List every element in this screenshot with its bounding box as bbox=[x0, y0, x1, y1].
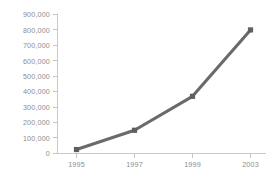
y-tick-label: 200,000 bbox=[23, 118, 50, 127]
y-tick-label: 700,000 bbox=[23, 41, 50, 50]
y-tick-label: 300,000 bbox=[23, 103, 50, 112]
data-point-marker bbox=[248, 27, 253, 32]
series-line bbox=[77, 30, 251, 150]
x-axis-tick-labels: 1995 1997 1999 2003 bbox=[68, 160, 259, 169]
y-tick-label: 600,000 bbox=[23, 57, 50, 66]
series-markers bbox=[74, 27, 253, 152]
x-axis-ticks bbox=[77, 153, 251, 157]
y-tick-label: 0 bbox=[46, 149, 50, 158]
x-tick-label: 1995 bbox=[68, 160, 85, 169]
y-axis-ticks bbox=[53, 15, 58, 154]
x-tick-label: 2003 bbox=[242, 160, 259, 169]
x-axis: 1995 1997 1999 2003 bbox=[58, 153, 267, 169]
y-tick-label: 400,000 bbox=[23, 87, 50, 96]
y-axis: 900,000 800,000 700,000 600,000 500,000 … bbox=[23, 10, 58, 158]
y-tick-label: 800,000 bbox=[23, 26, 50, 35]
data-point-marker bbox=[132, 128, 137, 133]
y-tick-label: 100,000 bbox=[23, 134, 50, 143]
x-tick-label: 1999 bbox=[184, 160, 201, 169]
data-series bbox=[74, 27, 253, 152]
data-point-marker bbox=[74, 147, 79, 152]
y-tick-label: 900,000 bbox=[23, 10, 50, 19]
y-axis-tick-labels: 900,000 800,000 700,000 600,000 500,000 … bbox=[23, 10, 50, 158]
data-point-marker bbox=[190, 94, 195, 99]
x-tick-label: 1997 bbox=[126, 160, 143, 169]
y-tick-label: 500,000 bbox=[23, 72, 50, 81]
chart-canvas: 900,000 800,000 700,000 600,000 500,000 … bbox=[0, 0, 273, 184]
line-chart: 900,000 800,000 700,000 600,000 500,000 … bbox=[0, 0, 273, 184]
